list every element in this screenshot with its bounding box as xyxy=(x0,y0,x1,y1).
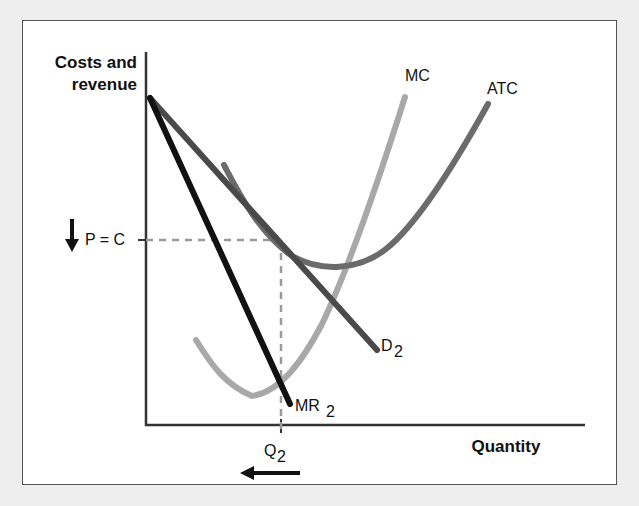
svg-text:Q: Q xyxy=(264,442,276,459)
economics-chart: Costs and revenue Quantity MC ATC D 2 MR… xyxy=(0,0,639,506)
y-axis-title-line1: Costs and xyxy=(55,53,137,72)
marginal-revenue-curve-mr2 xyxy=(150,98,290,404)
d2-curve-label: D 2 xyxy=(381,337,403,360)
y-axis-title-line2: revenue xyxy=(72,75,137,94)
svg-text:2: 2 xyxy=(277,448,286,465)
demand-curve-d2 xyxy=(150,98,377,350)
mc-curve-label: MC xyxy=(405,67,430,84)
svg-text:2: 2 xyxy=(326,403,335,420)
x-axis-title: Quantity xyxy=(472,437,541,456)
quantity-q2-label: Q 2 xyxy=(264,442,286,465)
svg-text:2: 2 xyxy=(394,343,403,360)
price-cost-label: P = C xyxy=(85,231,125,248)
quantity-left-arrow-head xyxy=(240,466,254,480)
mr2-curve-label: MR 2 xyxy=(295,397,335,420)
mc-curve xyxy=(196,97,405,396)
svg-text:D: D xyxy=(381,337,393,354)
price-down-arrow-head xyxy=(65,239,79,252)
quantity-decrease-arrow xyxy=(240,466,300,480)
svg-text:MR: MR xyxy=(295,397,320,414)
atc-curve-label: ATC xyxy=(487,80,518,97)
price-cost-annotation: P = C xyxy=(65,219,125,252)
